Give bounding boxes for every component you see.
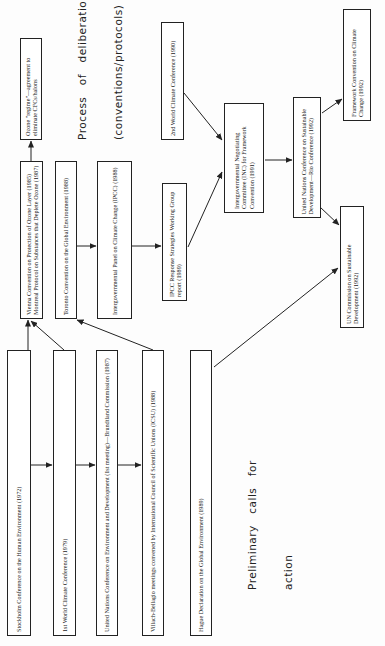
node-vienna: Vienna Convention on Protection of Ozone… [20,161,43,319]
node-label: United Nations Conference on Sustainable… [300,101,315,214]
node-label: Villach-Bellagio meetings convened by In… [149,354,156,632]
preliminary-label-line1: Preliminary calls for [246,460,258,590]
arrow-unced-to-csd [320,207,339,225]
preliminary-label-line2: action [282,460,294,590]
arrow-wcc1-to-vienna [31,321,64,350]
node-ipcc_response: IPCC Response Strategies Working Group r… [162,183,187,301]
node-label: Toronto Convention on the Global Environ… [62,165,69,315]
arrow-hague-to-csd [214,268,338,367]
node-label: Vienna Convention on Protection of Ozone… [24,165,39,315]
node-label: Stockholm Conference on the Human Enviro… [15,354,22,632]
section-label-deliberation: Process of deliberation (conventions/pro… [52,0,148,140]
node-label: Ozone "regime"—agreement to eliminate CF… [24,42,39,136]
deliberation-label-line2: (conventions/protocols) [112,0,124,140]
arrow-villach-to-toronto [77,320,153,350]
node-inc: Intergovernmental Negotiating Committee … [224,103,264,213]
node-stockholm: Stockholm Conference on the Human Enviro… [7,350,31,636]
node-ozone: Ozone "regime"—agreement to eliminate CF… [20,38,42,140]
node-fccc: Framework Convention on Climate Change (… [343,9,371,121]
node-label: Hague Declaration on the Global Environm… [197,354,204,632]
node-unced: United Nations Conference on Sustainable… [293,97,321,218]
arrow-ipcc_response-to-inc [188,172,222,247]
node-label: Framework Convention on Climate Change (… [350,13,365,117]
node-toronto: Toronto Convention on the Global Environ… [55,161,77,319]
node-csd: UN Commission on Sustainable Development… [340,206,364,328]
node-hague: Hague Declaration on the Global Environm… [190,350,212,636]
arrow-unced-to-fccc [322,99,342,113]
node-label: 2nd World Climate Conference (1990) [169,26,176,136]
node-label: United Nations Conference on Environment… [103,354,110,632]
node-label: Intergovernmental Negotiating Committee … [233,107,255,209]
node-brundtland: United Nations Conference on Environment… [96,350,118,636]
arrow-wcc2-to-inc [184,93,222,140]
node-wcc1: 1st World Climate Conference (1979) [53,350,76,636]
node-label: 1st World Climate Conference (1979) [61,354,68,632]
diagram-canvas: Stockholm Conference on the Human Enviro… [0,0,385,646]
node-wcc2: 2nd World Climate Conference (1990) [161,22,184,140]
node-ipcc: Intergovernmental Panel on Climate Chang… [97,161,132,319]
section-label-preliminary: Preliminary calls for action [222,460,318,590]
node-label: Intergovernmental Panel on Climate Chang… [111,165,118,315]
node-label: IPCC Response Strategies Working Group r… [167,187,182,297]
node-label: UN Commission on Sustainable Development… [345,210,360,324]
node-villach: Villach-Bellagio meetings convened by In… [142,350,164,636]
deliberation-label-line1: Process of deliberation [76,0,88,140]
